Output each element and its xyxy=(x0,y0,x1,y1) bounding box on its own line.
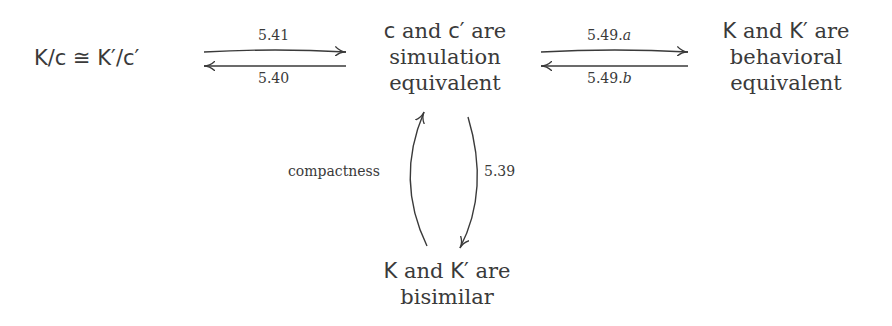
label-5-39: 5.39 xyxy=(484,163,515,179)
beh-line2: behavioral xyxy=(700,44,872,70)
node-quotient-iso: K/c ≅ K′/c′ xyxy=(34,45,139,71)
label-5-49a-num: 5.49. xyxy=(587,27,623,43)
label-5-49b-sub: b xyxy=(623,70,632,86)
node-bisimilar: K and K′ are bisimilar xyxy=(362,258,532,310)
quotient-text: K/c ≅ K′/c′ xyxy=(34,46,139,70)
label-5-49a: 5.49.a xyxy=(587,27,631,43)
sim-line3: equivalent xyxy=(365,70,525,96)
bisim-are: are xyxy=(469,259,511,283)
label-5-49b-num: 5.49. xyxy=(587,70,623,86)
arrow-compactness xyxy=(410,112,427,246)
label-5-49a-sub: a xyxy=(623,27,631,43)
arrow-5-41 xyxy=(204,50,346,52)
beh-are: are xyxy=(808,19,850,43)
bisim-and: and xyxy=(397,259,450,283)
beh-line3: equivalent xyxy=(700,70,872,96)
beh-and: and xyxy=(736,19,789,43)
sim-and: and xyxy=(395,19,448,43)
label-5-41: 5.41 xyxy=(258,27,289,43)
sim-are: are xyxy=(465,19,507,43)
sim-c: c xyxy=(384,19,396,43)
bisim-line1: K and K′ are xyxy=(362,258,532,284)
beh-k-prime: K′ xyxy=(789,19,808,43)
bisim-k: K xyxy=(384,259,398,283)
sim-line2: simulation xyxy=(365,44,525,70)
arrow-5-39 xyxy=(460,117,477,248)
sim-c-prime: c′ xyxy=(448,19,464,43)
label-compactness: compactness xyxy=(288,163,380,179)
arrow-5-49a xyxy=(541,50,688,52)
label-5-40: 5.40 xyxy=(258,70,289,86)
label-5-49b: 5.49.b xyxy=(587,70,632,86)
sim-line1: c and c′ are xyxy=(365,18,525,44)
bisim-k-prime: K′ xyxy=(450,259,469,283)
bisim-line2: bisimilar xyxy=(362,284,532,310)
beh-k: K xyxy=(723,19,737,43)
beh-line1: K and K′ are xyxy=(700,18,872,44)
node-simulation-equivalent: c and c′ are simulation equivalent xyxy=(365,18,525,96)
node-behavioral-equivalent: K and K′ are behavioral equivalent xyxy=(700,18,872,96)
